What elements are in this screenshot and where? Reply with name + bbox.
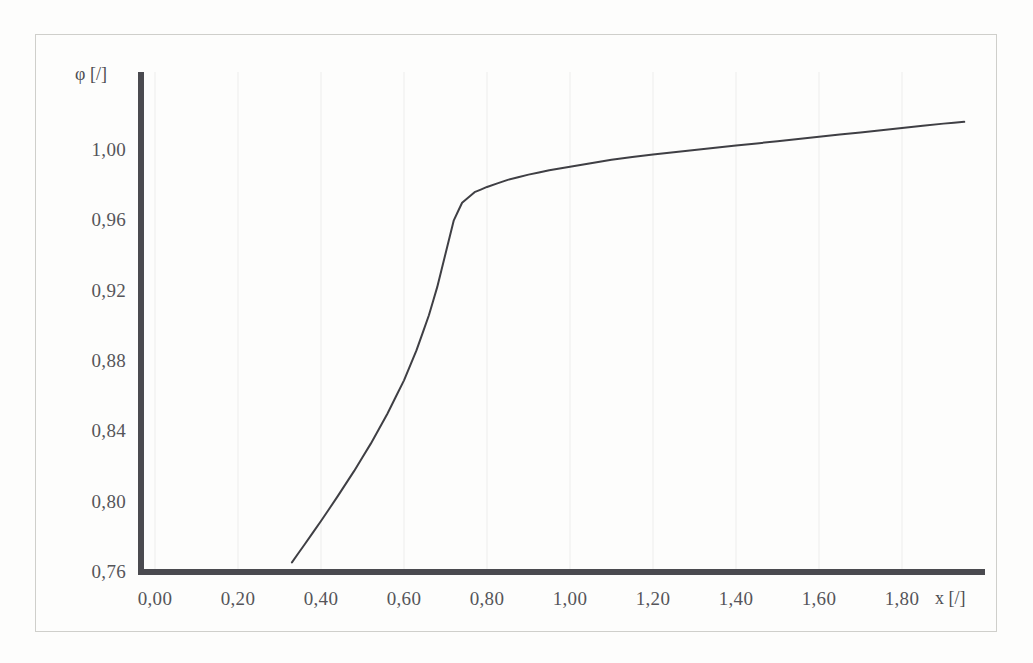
- y-axis-tick-label: 0,84: [58, 420, 126, 442]
- y-axis-tick-label: 1,00: [58, 139, 126, 161]
- x-axis-tick-label: 0,20: [221, 588, 255, 610]
- y-axis-tick-label: 0,96: [58, 209, 126, 231]
- gridlines-group: [155, 72, 902, 572]
- y-axis-tick-label: 0,80: [58, 491, 126, 513]
- plot-area: 0,760,800,840,880,920,961,00 0,000,200,4…: [0, 0, 1033, 663]
- x-axis-tick-label: 1,20: [636, 588, 670, 610]
- x-axis-tick-label: 0,00: [138, 588, 172, 610]
- y-axis-tick-label: 0,76: [58, 561, 126, 583]
- y-axis-title: φ [/]: [75, 64, 107, 85]
- axes-group: [138, 72, 985, 574]
- x-axis-tick-label: 0,40: [304, 588, 338, 610]
- x-axis-tick-label: 1,80: [885, 588, 919, 610]
- data-curve: [292, 122, 964, 562]
- x-axis-title: x [/]: [935, 588, 966, 609]
- x-axis-tick-label: 1,00: [553, 588, 587, 610]
- x-axis-tick-label: 1,60: [802, 588, 836, 610]
- x-axis-tick-label: 0,60: [387, 588, 421, 610]
- x-axis-tick-label: 1,40: [719, 588, 753, 610]
- data-series-group: [292, 122, 964, 562]
- chart-page: 0,760,800,840,880,920,961,00 0,000,200,4…: [0, 0, 1033, 663]
- chart-canvas: [0, 0, 1033, 663]
- x-axis-tick-label: 0,80: [470, 588, 504, 610]
- y-axis-tick-label: 0,88: [58, 350, 126, 372]
- y-axis-tick-label: 0,92: [58, 280, 126, 302]
